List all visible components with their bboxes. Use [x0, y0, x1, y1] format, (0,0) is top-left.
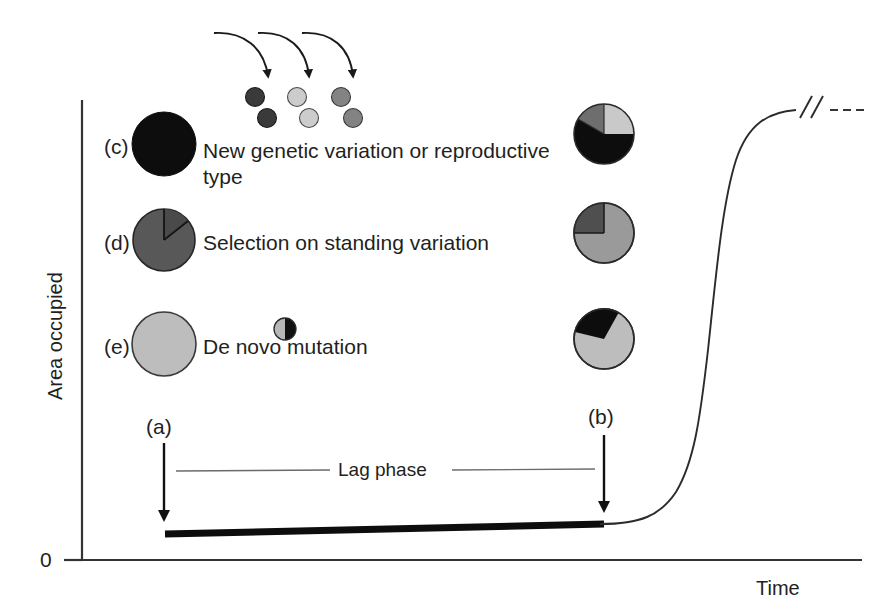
row-description-d: Selection on standing variation	[203, 230, 489, 256]
growth-curve	[600, 110, 796, 524]
row-d-end-pie	[574, 203, 634, 263]
row-description-c-line2: type	[203, 164, 243, 190]
propagule-dot-light-1	[288, 88, 307, 107]
immigration-arrow-1	[214, 33, 268, 76]
row-e-start-circle	[132, 312, 196, 376]
lag-phase-line-left	[176, 470, 330, 471]
marker-label-b: (b)	[588, 404, 614, 430]
propagule-dot-light-2	[300, 109, 319, 128]
row-tag-e: (e)	[104, 334, 130, 360]
row-c-end-pie	[574, 104, 634, 164]
y-axis-label: Area occupied	[44, 272, 67, 400]
row-description-e: De novo mutation	[203, 334, 368, 360]
row-tag-c: (c)	[104, 134, 129, 160]
figure-root: (c) New genetic variation or reproductiv…	[0, 0, 877, 616]
propagule-dot-dark-1	[246, 88, 265, 107]
row-description-c-line1: New genetic variation or reproductive	[203, 138, 550, 164]
y-axis-origin-label: 0	[40, 547, 52, 573]
immigration-arrow-2	[258, 33, 309, 76]
break-slash-2	[811, 96, 823, 118]
lag-phase-label: Lag phase	[338, 458, 427, 481]
immigration-arrow-3	[302, 33, 353, 76]
marker-label-a: (a)	[146, 414, 172, 440]
row-tag-d: (d)	[104, 230, 130, 256]
circle-light-gray	[132, 312, 196, 376]
lag-phase-line-right	[452, 469, 595, 470]
lag-phase-bold-segment	[165, 524, 604, 534]
row-e-end-pie	[574, 308, 634, 369]
row-d-start-circle	[133, 209, 195, 271]
row-c-start-circle	[132, 112, 196, 176]
propagule-dot-mid-1	[332, 88, 351, 107]
immigration-arrows-group	[214, 33, 363, 128]
figure-canvas	[0, 0, 877, 616]
propagule-dot-mid-2	[344, 109, 363, 128]
propagule-dot-dark-2	[258, 109, 277, 128]
circle-solid-black	[132, 112, 196, 176]
axis-break-mark	[800, 96, 864, 118]
break-slash-1	[800, 96, 812, 118]
x-axis-label: Time	[756, 576, 800, 600]
